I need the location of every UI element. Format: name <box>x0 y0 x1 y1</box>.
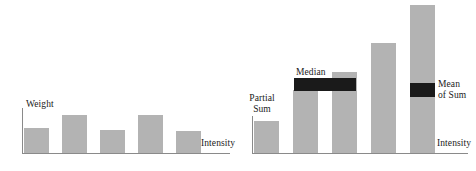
left-bar-2 <box>62 115 87 153</box>
right-y-axis-label-line2: Sum <box>240 104 284 115</box>
left-x-axis <box>22 153 230 154</box>
right-bar-5 <box>410 5 435 153</box>
right-bar-1 <box>254 121 279 153</box>
median-annotation-label: Median <box>296 67 326 78</box>
left-bar-1 <box>24 128 49 153</box>
mean-of-sum-annotation-label-line2: of Sum <box>438 90 476 101</box>
figure-two-bar-charts: Weight Intensity Partial Sum Median Mean… <box>0 0 476 171</box>
mean-of-sum-annotation-label-line1: Mean <box>438 79 476 90</box>
left-bar-4 <box>138 115 163 153</box>
right-bar-2 <box>293 90 318 153</box>
right-x-axis-label: Intensity <box>437 138 471 149</box>
right-y-axis-label-line1: Partial <box>240 93 284 104</box>
left-y-axis-label: Weight <box>26 99 54 110</box>
right-y-axis <box>252 116 253 153</box>
mean-of-sum-marker <box>410 83 435 97</box>
right-x-axis <box>252 153 468 154</box>
right-bar-4 <box>371 43 396 153</box>
left-bar-3 <box>100 130 125 153</box>
chart-panel-partial-sum: Partial Sum Median Mean of Sum Intensity <box>238 0 476 171</box>
left-y-axis <box>22 108 23 153</box>
left-bar-5 <box>176 131 201 153</box>
left-x-axis-label: Intensity <box>201 138 235 149</box>
chart-panel-weight: Weight Intensity <box>0 0 238 171</box>
median-marker <box>294 78 356 91</box>
